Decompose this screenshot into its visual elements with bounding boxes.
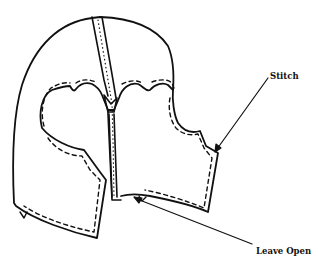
hood-illustration xyxy=(0,0,318,267)
stitch-pointer-line xyxy=(217,78,268,149)
diagram-canvas: Stitch Leave Open xyxy=(0,0,318,267)
gusset-lower-right xyxy=(114,114,117,197)
gusset-strip-right xyxy=(102,17,116,98)
gusset-strip-left xyxy=(92,17,108,96)
stitch-label: Stitch xyxy=(270,71,299,81)
leave-open-label: Leave Open xyxy=(256,246,311,256)
leave-open-pointer-line xyxy=(137,199,252,244)
stitch-line-front-panel xyxy=(145,98,212,208)
hood-outline xyxy=(13,17,173,238)
leave-open-marker-left xyxy=(20,212,27,218)
